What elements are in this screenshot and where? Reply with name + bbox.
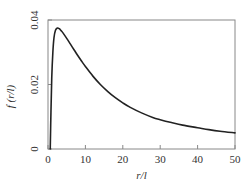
y-axis-label: f (r/l) <box>4 84 17 108</box>
x-tick-label: 30 <box>155 153 167 165</box>
x-tick-label: 20 <box>117 153 129 165</box>
x-tick-label: 40 <box>192 153 204 165</box>
data-line <box>50 28 235 149</box>
x-axis-label: r/l <box>136 169 146 181</box>
x-tick-label: 10 <box>80 153 92 165</box>
x-tick-label: 50 <box>230 153 242 165</box>
line-chart: 01020304050 00.020.04 r/l f (r/l) <box>0 0 251 196</box>
y-tick-label: 0.04 <box>28 10 40 30</box>
x-tick-label: 0 <box>45 153 51 165</box>
y-tick-label: 0 <box>28 146 40 152</box>
x-axis-ticks: 01020304050 <box>45 145 241 165</box>
y-tick-label: 0.02 <box>28 75 40 94</box>
